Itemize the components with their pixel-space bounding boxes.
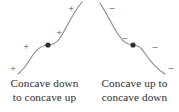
caption-right-line1: Concave up to <box>90 76 179 90</box>
sign-left-2: + <box>21 42 31 52</box>
panel-concave-up-to-down: – – – – Concave up to concave down <box>90 0 179 112</box>
concavity-figure: + + + + Concave down to concave up – – –… <box>0 0 179 112</box>
panel-concave-down-to-up: + + + + Concave down to concave up <box>0 0 89 112</box>
sign-left-1: + <box>8 64 18 74</box>
sign-left-3: + <box>54 28 64 38</box>
sign-left-4: + <box>66 4 76 14</box>
sign-right-2: – <box>120 33 130 43</box>
caption-right-line2: concave down <box>90 90 179 104</box>
sign-right-3: – <box>150 42 160 52</box>
inflection-point-marker-left <box>45 42 50 47</box>
inflection-point-marker-right <box>130 42 135 47</box>
sign-right-4: – <box>166 63 176 73</box>
caption-left-line1: Concave down <box>0 76 89 90</box>
curve-path-right <box>100 3 165 74</box>
sign-right-1: – <box>107 3 117 13</box>
caption-left: Concave down to concave up <box>0 76 89 104</box>
caption-right: Concave up to concave down <box>90 76 179 104</box>
caption-left-line2: to concave up <box>0 90 89 104</box>
